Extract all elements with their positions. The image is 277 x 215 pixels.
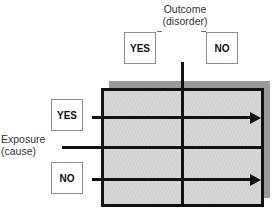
outcome-title: Outcome (160, 3, 210, 15)
arrow-right-icon (250, 112, 261, 124)
outcome-subtitle: (disorder) (160, 15, 210, 27)
arrow-right-icon (250, 174, 261, 186)
exposure-yes-arrow-shaft (92, 116, 252, 119)
outcome-no-label: NO (215, 43, 230, 54)
exposure-no-box: NO (51, 162, 83, 194)
outcome-yes-box: YES (124, 32, 156, 64)
outcome-no-box: NO (206, 32, 238, 64)
exposure-no-arrow-shaft (92, 178, 252, 181)
exposure-no-label: NO (60, 173, 75, 184)
exposure-yes-box: YES (51, 99, 83, 131)
exposure-divider (62, 146, 264, 149)
outcome-connector-left (157, 31, 162, 32)
exposure-title: Exposure (1, 133, 45, 145)
exposure-subtitle: (cause) (1, 145, 45, 157)
exposure-yes-label: YES (57, 110, 77, 121)
outcome-yes-label: YES (130, 43, 150, 54)
exposure-label: Exposure (cause) (1, 133, 45, 157)
outcome-divider (181, 62, 184, 207)
outcome-label: Outcome (disorder) (160, 3, 210, 27)
